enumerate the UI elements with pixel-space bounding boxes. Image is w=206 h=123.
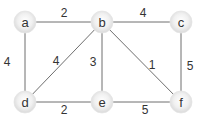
node-e: e: [91, 91, 113, 113]
node-label: e: [98, 95, 105, 110]
edge-weight-a-b: 2: [61, 6, 68, 20]
edge-weight-b-e: 3: [90, 55, 97, 69]
edge-weight-a-d: 4: [4, 55, 11, 69]
edge-weight-c-f: 5: [187, 59, 194, 73]
node-label: b: [98, 15, 105, 30]
node-f: f: [170, 91, 192, 113]
edge-weight-e-f: 5: [142, 103, 149, 117]
node-label: a: [21, 15, 29, 30]
edge-b-f: [102, 22, 181, 102]
edges-layer: [25, 22, 181, 102]
edge-weight-b-c: 4: [140, 6, 147, 20]
edge-weight-b-f: 1: [149, 58, 156, 72]
node-label: c: [178, 15, 185, 30]
node-d: d: [14, 91, 36, 113]
node-label: f: [179, 95, 183, 110]
edge-weight-d-e: 2: [61, 103, 68, 117]
graph-diagram: 244431525 abcdef: [0, 0, 206, 123]
edge-weight-b-d: 4: [53, 54, 60, 68]
node-a: a: [14, 11, 36, 33]
node-b: b: [91, 11, 113, 33]
nodes-layer: abcdef: [14, 11, 192, 113]
node-label: d: [21, 95, 28, 110]
node-c: c: [170, 11, 192, 33]
